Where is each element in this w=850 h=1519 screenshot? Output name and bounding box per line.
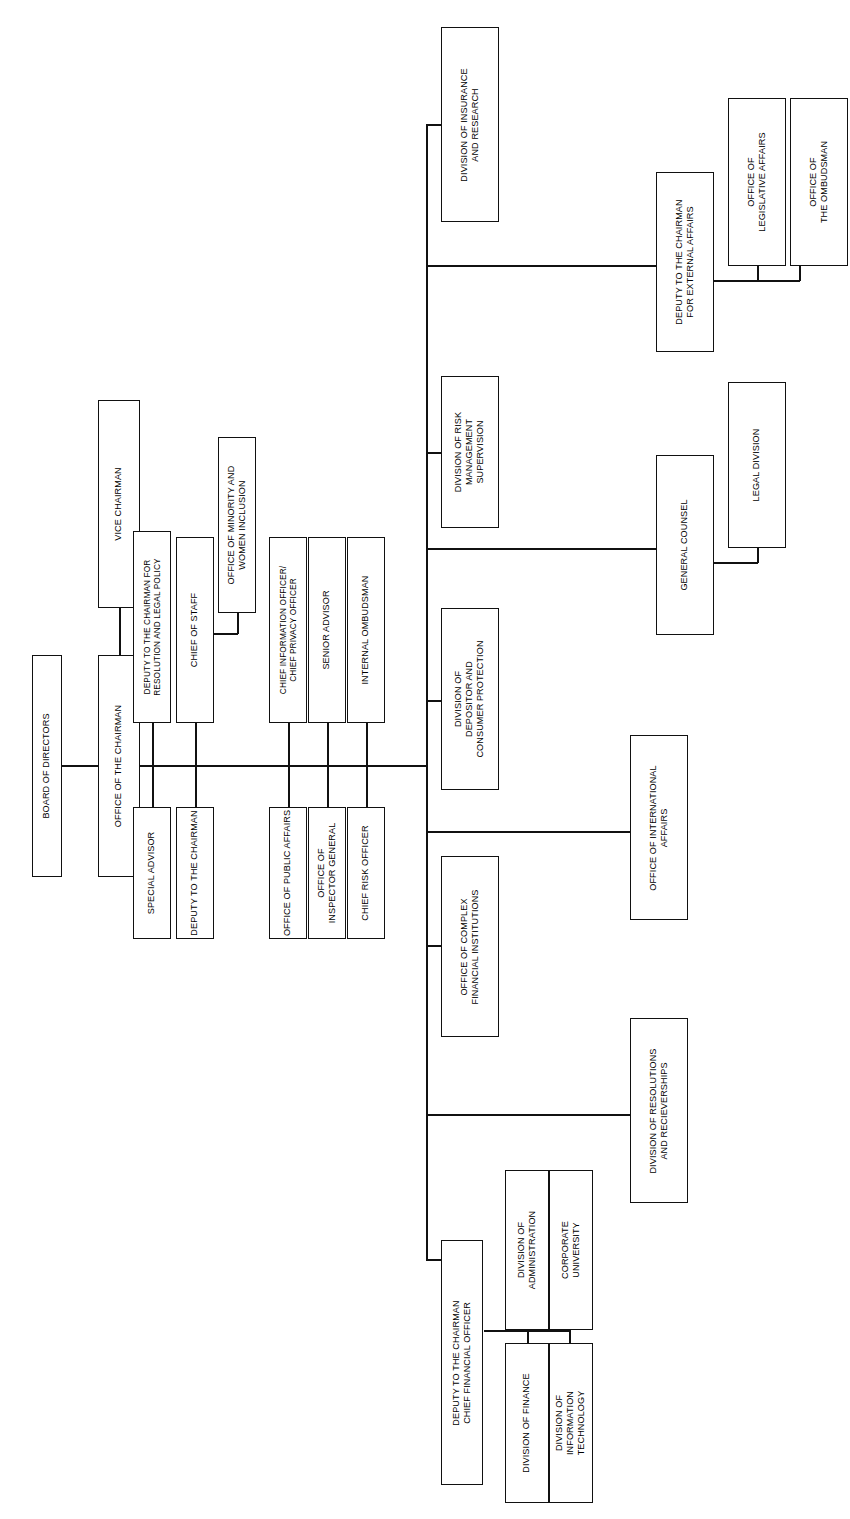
connector-chiefofstaff-stem [195,723,197,766]
connector-specialadvisor-stem [152,765,154,807]
connector-omwi-elbow-v [237,613,239,634]
branch-depositor-consumer [426,700,442,702]
node-label: OFFICE OF LEGISLATIVE AFFAIRS [746,132,768,231]
node-division-of-administration[interactable]: DIVISION OF ADMINISTRATION [505,1170,549,1330]
node-label: OFFICE OF THE CHAIRMAN [113,705,124,827]
node-label: DIVISION OF RISK MANAGEMENT SUPERVISION [453,412,487,492]
node-division-of-depositor-and-consumer-protection[interactable]: DIVISION OF DEPOSITOR AND CONSUMER PROTE… [441,608,499,790]
node-label: OFFICE OF COMPLEX FINANCIAL INSTITUTIONS [459,889,481,1004]
connector-cio-stem [288,723,290,766]
node-office-of-public-affairs[interactable]: OFFICE OF PUBLIC AFFAIRS [269,807,307,939]
node-label: VICE CHAIRMAN [113,467,124,541]
node-division-of-resolutions-and-receiverships[interactable]: DIVISION OF RESOLUTIONS AND RECIEVERSHIP… [630,1018,688,1203]
arm-international-affairs [426,831,630,833]
node-label: BOARD OF DIRECTORS [41,713,52,818]
node-deputy-resolution-legal-policy[interactable]: DEPUTY TO THE CHAIRMAN FOR RESOLUTION AN… [133,531,171,723]
node-label: SPECIAL ADVISOR [146,832,157,915]
spine-main-horizontal [119,765,427,767]
node-deputy-to-the-chairman[interactable]: DEPUTY TO THE CHAIRMAN [176,807,214,939]
node-label: DIVISION OF FINANCE [521,1373,532,1472]
node-label: OFFICE OF MINORITY AND WOMEN INCLUSION [226,466,248,585]
node-label: INTERNAL OMBUDSMAN [360,575,371,684]
connector-internalombudsman-stem [366,723,368,766]
node-label: OFFICE OF THE OMBUDSMAN [808,141,830,223]
branch-cfo [426,1259,442,1261]
node-label: SENIOR ADVISOR [321,590,332,669]
node-division-of-finance[interactable]: DIVISION OF FINANCE [505,1343,549,1503]
node-office-of-the-ombudsman[interactable]: OFFICE OF THE OMBUDSMAN [790,98,848,266]
arm-general-counsel [426,548,656,550]
node-label: OFFICE OF PUBLIC AFFAIRS [282,810,293,936]
node-label: DEPUTY TO THE CHAIRMAN FOR EXTERNAL AFFA… [674,199,696,324]
node-label: DEPUTY TO THE CHAIRMAN [189,810,200,935]
bus-general-counsel-children [714,562,758,564]
stem-division-it [569,1330,571,1344]
node-internal-ombudsman[interactable]: INTERNAL OMBUDSMAN [347,537,385,723]
stem-legal-division [757,548,759,563]
node-corporate-university[interactable]: CORPORATE UNIVERSITY [549,1170,593,1330]
branch-risk-management [426,452,442,454]
org-chart-canvas: BOARD OF DIRECTORS OFFICE OF THE CHAIRMA… [0,0,850,1519]
node-label: CHIEF INFORMATION OFFICER/ CHIEF PRIVACY… [278,566,298,694]
node-office-of-minority-and-women-inclusion[interactable]: OFFICE OF MINORITY AND WOMEN INCLUSION [218,437,256,613]
node-label: DEPUTY TO THE CHAIRMAN FOR RESOLUTION AN… [142,558,162,696]
arm-resolutions-receiverships [426,1114,630,1116]
node-label: DIVISION OF RESOLUTIONS AND RECIEVERSHIP… [648,1048,670,1173]
node-label: DIVISION OF INFORMATION TECHNOLOGY [554,1391,588,1456]
node-office-of-inspector-general[interactable]: OFFICE OF INSPECTOR GENERAL [308,807,346,939]
connector-chiefriskofficer-stem [366,765,368,807]
node-division-of-information-technology[interactable]: DIVISION OF INFORMATION TECHNOLOGY [549,1343,593,1503]
node-senior-advisor[interactable]: SENIOR ADVISOR [308,537,346,723]
connector-board-to-chairman [60,765,98,767]
node-label: OFFICE OF INSPECTOR GENERAL [316,823,338,924]
node-label: DIVISION OF INSURANCE AND RESEARCH [459,68,481,181]
stem-division-finance [527,1330,529,1344]
node-special-advisor[interactable]: SPECIAL ADVISOR [133,807,171,939]
node-label: CORPORATE UNIVERSITY [560,1221,582,1279]
connector-inspectorgeneral-stem [327,765,329,807]
node-label: CHIEF RISK OFFICER [360,825,371,920]
node-office-of-complex-financial-institutions[interactable]: OFFICE OF COMPLEX FINANCIAL INSTITUTIONS [441,856,499,1037]
connector-publicaffairs-stem [288,765,290,807]
branch-complex-financial [426,945,442,947]
node-board-of-directors[interactable]: BOARD OF DIRECTORS [32,655,62,877]
connector-vicechair-stem [119,608,121,658]
node-chief-information-officer-chief-privacy-officer[interactable]: CHIEF INFORMATION OFFICER/ CHIEF PRIVACY… [269,537,307,723]
node-label: LEGAL DIVISION [751,429,762,502]
stem-legislative-affairs [757,266,759,281]
node-label: DIVISION OF ADMINISTRATION [516,1211,538,1290]
node-label: DEPUTY TO THE CHAIRMAN CHIEF FINANCIAL O… [451,1300,473,1425]
node-office-of-international-affairs[interactable]: OFFICE OF INTERNATIONAL AFFAIRS [630,735,688,920]
trunk-divisions-vertical [426,125,428,1260]
node-deputy-to-the-chairman-for-external-affairs[interactable]: DEPUTY TO THE CHAIRMAN FOR EXTERNAL AFFA… [656,172,714,352]
arm-external-affairs [426,265,656,267]
node-division-of-insurance-and-research[interactable]: DIVISION OF INSURANCE AND RESEARCH [441,27,499,222]
node-chief-risk-officer[interactable]: CHIEF RISK OFFICER [347,807,385,939]
node-office-of-legislative-affairs[interactable]: OFFICE OF LEGISLATIVE AFFAIRS [728,98,786,266]
connector-senioradvisor-stem [327,723,329,766]
node-general-counsel[interactable]: GENERAL COUNSEL [656,455,714,635]
node-division-of-risk-management-supervision[interactable]: DIVISION OF RISK MANAGEMENT SUPERVISION [441,376,499,528]
node-deputy-to-the-chairman-chief-financial-officer[interactable]: DEPUTY TO THE CHAIRMAN CHIEF FINANCIAL O… [441,1240,483,1485]
node-label: DIVISION OF DEPOSITOR AND CONSUMER PROTE… [453,640,487,757]
branch-insurance-research [426,124,442,126]
node-label: CHIEF OF STAFF [189,593,200,667]
node-label: OFFICE OF INTERNATIONAL AFFAIRS [648,765,670,890]
node-chief-of-staff[interactable]: CHIEF OF STAFF [176,537,214,723]
connector-deputychairman-stem [195,765,197,807]
node-label: GENERAL COUNSEL [679,499,690,590]
node-legal-division[interactable]: LEGAL DIVISION [728,382,786,548]
connector-deputy-reslegal-stem [152,723,154,766]
stem-ombudsman [799,266,801,281]
